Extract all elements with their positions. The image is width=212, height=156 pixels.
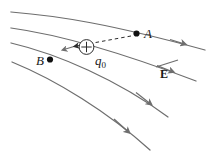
figure-background [0,0,212,156]
point-a-label: A [144,27,152,40]
positive-charge-icon [79,40,94,55]
test-charge-subscript: 0 [102,60,107,70]
test-charge-symbol: q [95,53,102,68]
point-b-label: B [36,54,44,67]
point-a-dot [133,30,139,36]
electric-field-figure: A B E q0 [0,0,212,156]
field-lines-canvas [0,0,212,156]
point-b-dot [47,56,53,62]
field-label: E [160,68,168,80]
test-charge-label: q0 [95,54,106,67]
